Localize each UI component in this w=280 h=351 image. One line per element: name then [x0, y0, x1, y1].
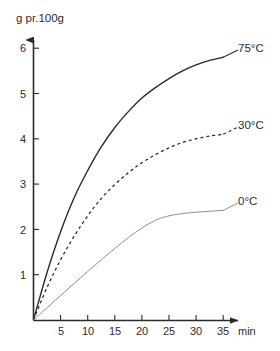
y-tick-label-3: 3 — [6, 178, 26, 190]
y-tick-label-5: 5 — [6, 88, 26, 100]
series-leader-75c — [223, 50, 238, 57]
x-tick-label-20: 20 — [130, 325, 154, 337]
x-tick-label-5: 5 — [49, 325, 73, 337]
series-label-75c: 75°C — [238, 42, 264, 54]
x-tick-label-35: 35 — [211, 325, 235, 337]
x-axis-ticks — [61, 315, 224, 321]
series-leader-0c — [223, 203, 238, 210]
series-leader-30c — [223, 127, 238, 134]
x-tick-label-15: 15 — [103, 325, 127, 337]
series-label-30c: 30°C — [238, 119, 264, 131]
series-line-75c — [34, 57, 224, 320]
y-tick-label-2: 2 — [6, 224, 26, 236]
y-tick-label-6: 6 — [6, 42, 26, 54]
y-axis-ticks — [34, 48, 40, 275]
y-tick-label-1: 1 — [6, 269, 26, 281]
y-tick-label-4: 4 — [6, 133, 26, 145]
series-label-0c: 0°C — [238, 195, 257, 207]
x-tick-label-10: 10 — [76, 325, 100, 337]
chart-figure: g pr.100g — [0, 0, 280, 351]
x-tick-label-30: 30 — [184, 325, 208, 337]
x-axis-unit: min — [238, 325, 256, 337]
x-tick-label-25: 25 — [157, 325, 181, 337]
